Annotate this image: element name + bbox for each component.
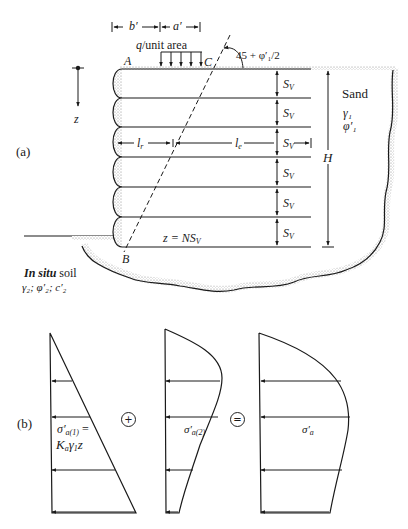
backfill-unit-weight: γ₁ <box>343 107 352 119</box>
depth-axis <box>72 66 84 106</box>
point-b-label: B <box>122 253 129 265</box>
dimension-b-label: b′ <box>129 20 138 32</box>
foundation-name: In situ soil <box>24 267 77 279</box>
surcharge-load-arrows <box>161 52 202 66</box>
part-a-label: (a) <box>16 145 30 158</box>
depth-formula: z = NSV <box>163 232 201 244</box>
load-unit: /unit area <box>142 38 187 52</box>
foundation-name-italic: In situ <box>24 266 56 280</box>
depth-formula-main: z = NS <box>163 231 196 245</box>
angle-label: 45 + φ′₁/2 <box>236 50 280 61</box>
length-r-sub: r <box>140 142 143 151</box>
stress-label-1: σ′a(1) = <box>57 423 89 435</box>
height-label: H <box>323 151 332 164</box>
spacing-label: SV <box>283 137 294 149</box>
backfill-name: Sand <box>342 87 368 100</box>
spacing-label: SV <box>283 197 294 209</box>
spacing-sub: V <box>289 172 294 181</box>
spacing-label: SV <box>283 227 294 239</box>
load-label: q/unit area <box>136 39 187 51</box>
stress-2-sigma: σ′ <box>184 423 192 435</box>
spacing-label: SV <box>283 167 294 179</box>
formula-z: z <box>78 437 83 452</box>
stress-total-sub: a <box>310 428 314 437</box>
spacing-sub: V <box>289 232 294 241</box>
spacing-sub: V <box>289 142 294 151</box>
depth-axis-label: z <box>74 113 79 125</box>
stress-label-2: σ′a(2) <box>184 424 205 435</box>
backfill-friction-angle: φ′₁ <box>343 120 356 132</box>
formula-k: K <box>56 437 65 452</box>
length-e-sub: e <box>238 142 242 151</box>
spacing-label: SV <box>283 107 294 119</box>
dimension-a-label: a′ <box>173 20 182 32</box>
part-b-label: (b) <box>17 417 32 430</box>
stress-2-sub: a(2) <box>192 428 205 437</box>
point-c-label: C <box>204 56 212 68</box>
plus-symbol: + <box>121 412 136 427</box>
spacing-sub: V <box>289 202 294 211</box>
length-effective-label: le <box>235 137 242 149</box>
spacing-sub: V <box>289 112 294 121</box>
dimension-b-a <box>112 22 200 32</box>
geotextile-layers <box>122 69 311 247</box>
depth-formula-sub: V <box>196 237 201 246</box>
equals-symbol: = <box>230 412 245 427</box>
stress-1-equals: = <box>79 422 89 436</box>
stress-formula-1: Kaγ1z <box>56 438 83 451</box>
foundation-name-rest: soil <box>56 266 76 280</box>
stress-total-sigma: σ′ <box>302 423 310 435</box>
stress-1-sigma: σ′ <box>57 422 66 436</box>
stress-1-sub: a(1) <box>66 428 79 437</box>
pressure-diagram-2 <box>165 329 222 513</box>
spacing-label: SV <box>283 78 294 90</box>
spacing-sub: V <box>289 83 294 92</box>
stress-label-total: σ′a <box>302 424 314 435</box>
wrap-faces <box>113 69 122 247</box>
point-a-label: A <box>124 55 131 67</box>
foundation-properties: γ₂; φ′₂; c′₂ <box>22 282 66 293</box>
length-resisting-label: lr <box>137 137 143 149</box>
